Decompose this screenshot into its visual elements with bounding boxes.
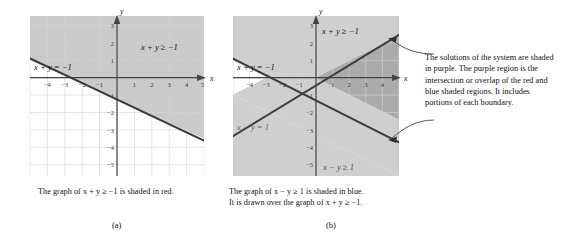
graph-b-svg: x y −4 −3 −2 −1 1 2 3 4 3 2 1 −1 −2 −3 xyxy=(225,4,410,179)
figure-root: x y −4 −3 −2 −1 1 2 3 4 5 3 2 1 −1 −2 xyxy=(0,0,561,247)
graph-panel-a: x y −4 −3 −2 −1 1 2 3 4 5 3 2 1 −1 −2 xyxy=(10,4,220,179)
sublabel-panel-b: (b) xyxy=(326,220,336,230)
y-tick-b-5: −3 xyxy=(306,127,313,134)
sublabel-panel-a: (a) xyxy=(112,220,121,230)
graph-panel-b: x y −4 −3 −2 −1 1 2 3 4 3 2 1 −1 −2 −3 xyxy=(225,4,410,179)
y-tick-a-5: −3 xyxy=(107,127,114,134)
y-tick-a-0: 3 xyxy=(111,22,114,29)
graph-a-svg: x y −4 −3 −2 −1 1 2 3 4 5 3 2 1 −1 −2 xyxy=(10,4,220,179)
x-tick-a-1: −3 xyxy=(61,81,68,88)
region-label-b-1: x + y ≥ −1 xyxy=(321,26,359,36)
axis-label-y-b: y xyxy=(318,7,323,16)
caption-panel-b: The graph of x − y ≥ 1 is shaded in blue… xyxy=(229,186,434,208)
x-tick-a-4: 1 xyxy=(133,81,136,88)
x-tick-b-5: 2 xyxy=(348,81,351,88)
line-label-b-2: x − y = 1 xyxy=(236,122,269,132)
y-tick-b-1: 2 xyxy=(310,40,313,47)
leader-arrow-top-icon xyxy=(388,37,397,44)
y-tick-b-6: −4 xyxy=(306,144,314,151)
axis-label-y-a: y xyxy=(119,7,124,16)
x-tick-b-3: −1 xyxy=(296,81,303,88)
y-tick-b-4: −2 xyxy=(306,109,313,116)
x-tick-b-1: −3 xyxy=(263,81,270,88)
annotation-note-text: The solutions of the system are shaded i… xyxy=(425,52,557,108)
y-tick-a-7: −5 xyxy=(107,161,114,168)
x-tick-a-6: 3 xyxy=(168,81,171,88)
leader-line-bottom xyxy=(392,120,434,138)
y-tick-b-2: 1 xyxy=(310,57,313,64)
y-tick-a-2: 1 xyxy=(111,57,114,64)
x-tick-b-0: −4 xyxy=(246,81,254,88)
axis-label-x-a: x xyxy=(209,74,214,83)
y-tick-b-0: 3 xyxy=(310,22,313,29)
x-tick-a-2: −2 xyxy=(79,81,86,88)
line-label-b-1: x + y = −1 xyxy=(236,62,275,72)
x-tick-a-5: 2 xyxy=(150,81,153,88)
x-tick-b-4: 1 xyxy=(331,81,334,88)
y-tick-a-1: 2 xyxy=(111,40,114,47)
x-tick-a-3: −1 xyxy=(96,81,103,88)
x-tick-a-8: 5 xyxy=(201,81,204,88)
region-label-a: x + y ≥ −1 xyxy=(140,42,178,52)
y-tick-a-6: −4 xyxy=(107,144,115,151)
line-label-a: x + y = −1 xyxy=(33,62,72,72)
region-label-b-2: x − y ≥ 1 xyxy=(322,162,354,172)
x-tick-b-6: 3 xyxy=(364,81,367,88)
y-tick-a-3: −1 xyxy=(107,92,114,99)
x-tick-b-2: −2 xyxy=(279,81,286,88)
y-tick-b-7: −5 xyxy=(306,161,313,168)
y-tick-a-4: −2 xyxy=(107,109,114,116)
caption-panel-a: The graph of x + y ≥ −1 is shaded in red… xyxy=(38,186,238,197)
y-tick-b-3: −1 xyxy=(306,92,313,99)
x-tick-a-0: −4 xyxy=(44,81,52,88)
